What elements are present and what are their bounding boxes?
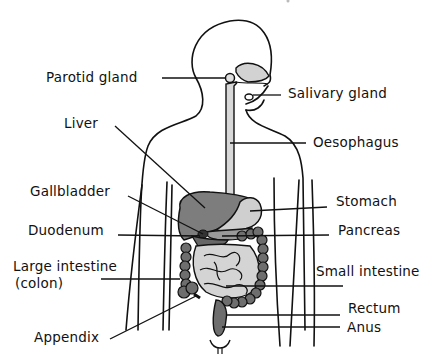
top-artifact	[287, 0, 290, 3]
anus-outline	[210, 340, 230, 348]
salivary-gland-shape	[245, 94, 253, 100]
label-appendix: Appendix	[34, 330, 99, 345]
label-stomach: Stomach	[336, 194, 397, 209]
leader-appendix	[110, 296, 196, 339]
label-oesophagus: Oesophagus	[313, 135, 399, 150]
arm-right-inner-2	[290, 180, 299, 346]
label-liver: Liver	[64, 116, 98, 131]
rectum-shape	[213, 300, 226, 336]
anus-stem	[218, 348, 222, 354]
label-pancreas: Pancreas	[338, 223, 400, 238]
label-colon: (colon)	[15, 276, 63, 291]
label-gallbladder: Gallbladder	[30, 184, 110, 199]
label-anus: Anus	[347, 320, 381, 335]
arm-right-outer	[312, 180, 314, 346]
label-rectum: Rectum	[348, 301, 401, 316]
digestive-system-diagram: Parotid gland Salivary gland Liver Oesop…	[0, 0, 446, 362]
label-large-intestine: Large intestine	[13, 259, 117, 274]
label-small-intestine: Small intestine	[316, 264, 420, 279]
label-salivary-gland: Salivary gland	[288, 86, 387, 101]
oesophagus-tube	[226, 82, 237, 200]
label-parotid-gland: Parotid gland	[46, 70, 138, 85]
mouth-lower	[246, 100, 264, 110]
nasal-cavity	[236, 63, 269, 82]
arm-left-inner-1	[163, 182, 167, 330]
parotid-gland-shape	[226, 74, 235, 83]
label-duodenum: Duodenum	[28, 223, 104, 238]
arm-right-inner-1	[274, 178, 280, 346]
